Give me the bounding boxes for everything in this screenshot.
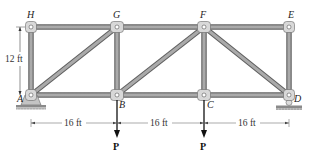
height-dimension: 12 ft bbox=[5, 27, 25, 95]
load-C-label: P bbox=[200, 141, 206, 152]
joint-D bbox=[284, 90, 295, 101]
height-label: 12 ft bbox=[5, 54, 23, 64]
label-E: E bbox=[287, 9, 294, 20]
span-label-AB: 16 ft bbox=[64, 118, 82, 128]
label-C: C bbox=[207, 99, 214, 110]
top-chord bbox=[31, 25, 289, 30]
span-dimensions: 16 ft 16 ft 16 ft bbox=[31, 118, 289, 128]
member-AH bbox=[29, 27, 34, 95]
diagonal-members bbox=[31, 27, 289, 95]
label-D: D bbox=[293, 93, 302, 104]
member-GF bbox=[117, 25, 204, 30]
member-BC bbox=[117, 93, 204, 98]
member-DE bbox=[287, 27, 292, 95]
load-B-label: P bbox=[113, 141, 119, 152]
joint-H bbox=[26, 22, 37, 33]
joint-G bbox=[111, 22, 124, 33]
label-H: H bbox=[26, 9, 35, 20]
member-HG bbox=[31, 25, 117, 30]
label-G: G bbox=[113, 9, 120, 20]
member-CF bbox=[202, 27, 207, 95]
truss-diagram: H G F E A B C D 12 ft P P bbox=[0, 0, 310, 162]
bottom-chord bbox=[31, 93, 289, 98]
label-B: B bbox=[119, 99, 125, 110]
joint-E bbox=[284, 22, 295, 33]
load-C: P bbox=[200, 100, 207, 152]
span-label-CD: 16 ft bbox=[238, 118, 256, 128]
label-F: F bbox=[199, 9, 207, 20]
span-label-BC: 16 ft bbox=[150, 118, 168, 128]
member-AB bbox=[31, 93, 117, 98]
member-FE bbox=[204, 25, 289, 30]
joint-F bbox=[198, 22, 211, 33]
member-BG bbox=[115, 27, 120, 95]
joint-A bbox=[26, 90, 37, 101]
member-CD bbox=[204, 93, 289, 98]
